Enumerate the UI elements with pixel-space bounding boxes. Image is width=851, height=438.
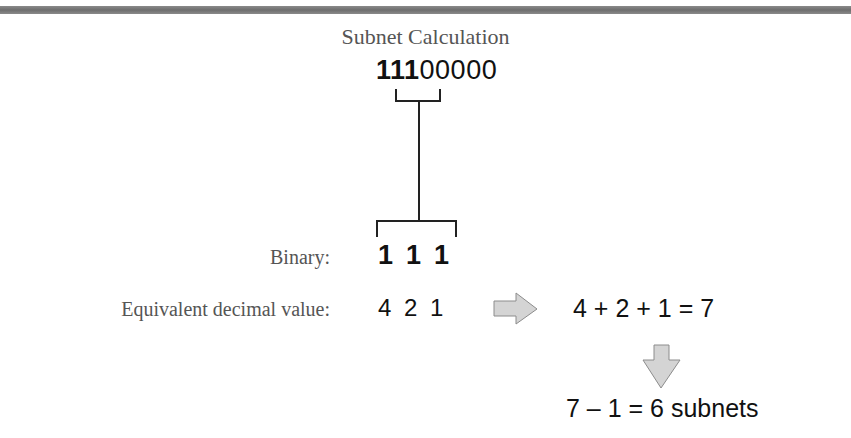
bracket-connectors	[0, 0, 851, 438]
decimal-4: 4	[378, 294, 404, 322]
decimal-2: 2	[404, 294, 430, 322]
bit-1: 1	[378, 240, 406, 271]
small-bracket	[396, 89, 440, 221]
arrow-down-icon	[643, 345, 680, 388]
sum-expression: 4 + 2 + 1 = 7	[573, 294, 714, 323]
bit-3: 1	[434, 240, 462, 271]
binary-bits: 111	[378, 240, 462, 271]
binary-label: Binary:	[0, 246, 330, 269]
result-expression: 7 – 1 = 6 subnets	[566, 394, 759, 423]
large-bracket	[377, 221, 456, 237]
arrow-right-icon	[494, 293, 537, 324]
decimal-1: 1	[430, 294, 456, 322]
decimal-label: Equivalent decimal value:	[0, 298, 330, 321]
bit-2: 1	[406, 240, 434, 271]
decimal-values: 421	[378, 294, 456, 322]
